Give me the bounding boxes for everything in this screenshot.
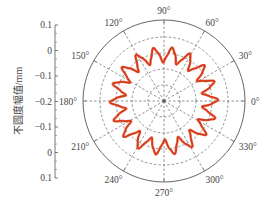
angle-tick-label: 30° bbox=[239, 51, 253, 61]
angle-tick-label: 300° bbox=[206, 175, 224, 185]
angle-tick-label: 210° bbox=[71, 142, 89, 152]
angular-tick-labels: 0°30°60°90°120°150°180°210°240°270°300°3… bbox=[59, 6, 260, 198]
angle-tick-label: 150° bbox=[71, 51, 89, 61]
angle-tick-label: 60° bbox=[206, 18, 220, 28]
angle-tick-label: 0° bbox=[251, 97, 260, 107]
angle-tick-label: 240° bbox=[104, 175, 122, 185]
radial-tick-label: 0.1 bbox=[40, 173, 52, 183]
angle-tick-label: 90° bbox=[157, 6, 171, 16]
radial-tick-label: 0 bbox=[47, 46, 52, 56]
radial-value-axis: 0.10−0.1−0.2−0.100.1 bbox=[35, 20, 58, 183]
polar-chart: 0.10−0.1−0.2−0.100.1 0°30°60°90°120°150°… bbox=[0, 0, 274, 203]
radial-tick-label: −0.1 bbox=[35, 71, 52, 81]
polar-grid bbox=[83, 20, 245, 182]
angle-tick-label: 330° bbox=[239, 142, 257, 152]
radial-tick-label: 0.1 bbox=[40, 20, 52, 30]
angle-tick-label: 270° bbox=[155, 188, 173, 198]
radial-tick-label: −0.2 bbox=[35, 97, 52, 107]
angle-tick-label: 180° bbox=[59, 97, 77, 107]
radial-tick-label: 0 bbox=[47, 148, 52, 158]
radial-tick-label: −0.1 bbox=[35, 122, 52, 132]
y-axis-label: 不圆度幅值/mm bbox=[10, 67, 25, 135]
angle-tick-label: 120° bbox=[104, 18, 122, 28]
